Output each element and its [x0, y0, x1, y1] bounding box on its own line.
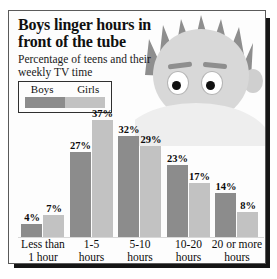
bar-group: 32%29% — [117, 111, 163, 237]
bar-value-label: 27% — [67, 140, 95, 151]
infographic-chart: Boys linger hours in front of the tube P… — [0, 0, 277, 279]
bar-boys — [215, 193, 236, 237]
bar-girls — [43, 215, 64, 237]
page-title: Boys linger hours in front of the tube — [18, 16, 168, 50]
bar-value-label: 7% — [40, 203, 68, 214]
bar-girls — [92, 120, 113, 237]
bar-group: 27%37% — [69, 111, 115, 237]
bar-group: 14%8% — [214, 111, 260, 237]
legend-labels: Boys Girls — [19, 82, 111, 96]
bar-boys — [167, 165, 188, 237]
legend-swatch-boys — [25, 97, 65, 108]
x-axis-label: Less than1 hour — [17, 238, 69, 263]
bar-value-label: 14% — [212, 181, 240, 192]
x-axis-label: 10-20hours — [163, 238, 215, 263]
pupil-left — [172, 81, 181, 90]
bar-value-label: 8% — [234, 200, 262, 211]
bar-girls — [237, 212, 258, 237]
x-axis-label: 5-10hours — [114, 238, 166, 263]
bar-value-label: 29% — [137, 134, 165, 145]
legend-label-boys: Boys — [31, 83, 54, 95]
bar-girls — [189, 183, 210, 237]
bar-group: 23%17% — [166, 111, 212, 237]
chart-frame: Boys linger hours in front of the tube P… — [8, 10, 266, 264]
bar-girls — [140, 146, 161, 237]
bar-plot-area: 4%7%27%37%32%29%23%17%14%8% — [18, 111, 264, 237]
bar-group: 4%7% — [20, 111, 66, 237]
pupil-right — [206, 81, 215, 90]
bar-boys — [118, 136, 139, 237]
x-axis-label: 20 or morehours — [211, 238, 263, 263]
bar-value-label: 37% — [89, 108, 117, 119]
legend-swatches — [25, 97, 105, 108]
bar-boys — [21, 224, 42, 237]
bar-value-label: 23% — [164, 153, 192, 164]
eye-left-icon — [167, 71, 189, 95]
legend-swatch-girls — [65, 97, 105, 108]
x-axis-label: 1-5hours — [66, 238, 118, 263]
eye-right-icon — [201, 71, 223, 95]
bar-value-label: 17% — [186, 171, 214, 182]
chart-subtitle: Percentage of teens and their weekly TV … — [18, 53, 158, 78]
bar-boys — [70, 152, 91, 237]
legend-label-girls: Girls — [77, 83, 99, 95]
x-axis-labels: Less than1 hour1-5hours5-10hours10-20hou… — [18, 238, 264, 264]
